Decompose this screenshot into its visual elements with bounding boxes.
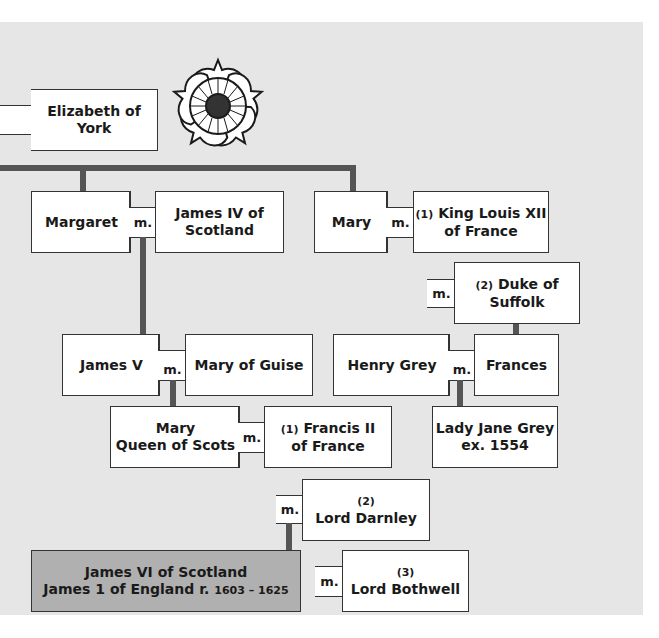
- person-james-vi: James VI of ScotlandJames 1 of England r…: [31, 550, 301, 612]
- marriage-label: m.: [427, 279, 456, 308]
- box-edge: [158, 380, 160, 396]
- person-duke-of-suffolk: (2) Duke ofSuffolk: [454, 262, 580, 324]
- marriage-label: m.: [238, 422, 266, 453]
- marriage-label: m.: [386, 207, 415, 238]
- marriage-label: m.: [315, 566, 344, 597]
- person-margaret: Margaret: [31, 191, 131, 253]
- person-louis-xii: (1) King Louis XIIof France: [413, 191, 549, 253]
- elizabeth-tab: [0, 105, 33, 135]
- person-elizabeth-of-york: Elizabeth ofYork: [31, 89, 158, 151]
- box-edge: [129, 191, 131, 208]
- box-edge: [238, 406, 240, 423]
- marriage-label: m.: [129, 207, 157, 238]
- person-henry-grey: Henry Grey: [333, 334, 450, 396]
- person-mary-of-guise: Mary of Guise: [185, 334, 313, 396]
- connector-line: [140, 237, 146, 255]
- box-edge: [386, 237, 388, 253]
- connector-line: [170, 380, 176, 406]
- connector-line: [457, 380, 463, 406]
- tudor-rose-icon: [168, 56, 268, 156]
- person-lord-bothwell: (3)Lord Bothwell: [342, 550, 469, 612]
- marriage-label: m.: [158, 350, 187, 381]
- person-frances: Frances: [474, 334, 559, 396]
- marriage-label: m.: [448, 350, 476, 381]
- person-francis-ii: (1) Francis IIof France: [264, 406, 392, 468]
- connector-line: [350, 165, 356, 191]
- person-mary-queen-of-scots: MaryQueen of Scots: [110, 406, 240, 468]
- person-mary-tudor: Mary: [314, 191, 388, 253]
- box-edge: [386, 191, 388, 208]
- person-james-v: James V: [62, 334, 160, 396]
- connector-line: [286, 523, 292, 551]
- person-lord-darnley: (2)Lord Darnley: [302, 479, 430, 541]
- box-edge: [448, 334, 450, 351]
- box-edge: [448, 380, 450, 396]
- connector-line: [0, 165, 356, 171]
- person-james-iv: James IV ofScotland: [155, 191, 284, 253]
- box-edge: [129, 237, 131, 253]
- person-lady-jane-grey: Lady Jane Greyex. 1554: [432, 406, 558, 468]
- connector-line: [80, 165, 86, 191]
- box-edge: [158, 334, 160, 351]
- box-edge: [238, 452, 240, 468]
- marriage-label: m.: [276, 495, 304, 524]
